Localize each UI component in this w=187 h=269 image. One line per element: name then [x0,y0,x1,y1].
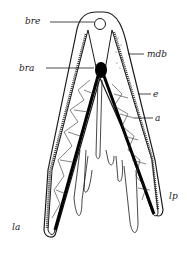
label-a: a [155,113,160,123]
label-e: e [153,89,158,99]
label-la: la [12,222,20,232]
bre-structure [95,19,106,30]
label-bre: bre [25,16,40,26]
label-mdb: mdb [147,49,167,59]
anatomical-diagram: bre mdb bra e a lp la [0,0,187,269]
diagram-svg: bre mdb bra e a lp la [0,0,187,269]
bra-structure [95,62,107,78]
label-bra: bra [19,63,34,73]
label-lp: lp [169,191,178,201]
